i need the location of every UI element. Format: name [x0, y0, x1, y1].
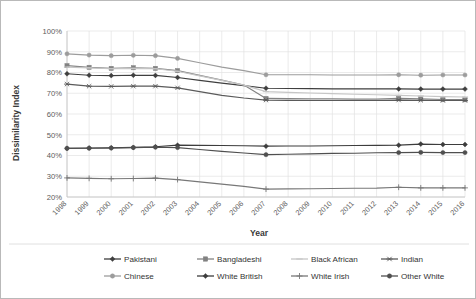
legend-item-chinese[interactable]: Chinese — [104, 272, 154, 281]
x-axis-title: Year — [250, 228, 269, 238]
y-axis-title: Dissimilarity Index — [11, 85, 21, 161]
x-tick-label: 2005 — [205, 199, 223, 217]
x-axis-tick-labels: 1998199920002001200220032004200520062007… — [50, 199, 466, 217]
y-tick-label: 100% — [43, 27, 63, 36]
x-tick-label: 2001 — [117, 199, 135, 217]
x-tick-label: 2014 — [404, 199, 422, 217]
x-tick-label: 2002 — [139, 199, 157, 217]
x-tick-label: 2011 — [338, 199, 356, 217]
legend-item-other-white[interactable]: Other White — [381, 272, 445, 281]
x-tick-label: 1999 — [73, 199, 91, 217]
x-tick-label: 2016 — [448, 199, 466, 217]
x-tick-label: 2003 — [161, 199, 179, 217]
legend-label: Indian — [401, 255, 423, 264]
chart-container: 100%90%80%70%60%50%40%30%20% 19981999200… — [0, 0, 476, 299]
x-tick-label: 2015 — [426, 199, 444, 217]
x-tick-label: 2004 — [183, 199, 201, 217]
line-chart: 100%90%80%70%60%50%40%30%20% 19981999200… — [1, 1, 476, 299]
y-tick-label: 30% — [47, 172, 62, 181]
legend-label: Chinese — [124, 272, 154, 281]
legend-label: Black African — [311, 255, 358, 264]
x-tick-label: 2012 — [360, 199, 378, 217]
x-tick-label: 2013 — [382, 199, 400, 217]
x-tick-label: 2010 — [316, 199, 334, 217]
legend-label: Pakistani — [124, 255, 157, 264]
legend-item-pakistani[interactable]: Pakistani — [104, 255, 157, 264]
legend-item-black-african[interactable]: Black African — [291, 255, 358, 264]
y-tick-label: 60% — [47, 110, 62, 119]
legend-item-white-british[interactable]: White British — [197, 272, 262, 281]
chart-legend: PakistaniBangladeshiBlack AfricanIndianC… — [104, 255, 445, 281]
x-tick-label: 2008 — [272, 199, 290, 217]
legend-label: White British — [217, 272, 262, 281]
y-axis-tick-labels: 100%90%80%70%60%50%40%30%20% — [43, 27, 63, 202]
x-tick-label: 2009 — [294, 199, 312, 217]
y-tick-label: 70% — [47, 89, 62, 98]
legend-label: Bangladeshi — [217, 255, 262, 264]
legend-item-white-irish[interactable]: White Irish — [291, 272, 349, 281]
x-tick-label: 2006 — [227, 199, 245, 217]
legend-item-bangladeshi[interactable]: Bangladeshi — [197, 255, 262, 264]
y-tick-label: 80% — [47, 68, 62, 77]
legend-label: White Irish — [311, 272, 349, 281]
y-tick-label: 40% — [47, 151, 62, 160]
legend-item-indian[interactable]: Indian — [381, 255, 423, 264]
y-tick-label: 50% — [47, 131, 62, 140]
x-tick-label: 2000 — [95, 199, 113, 217]
legend-label: Other White — [401, 272, 445, 281]
x-tick-label: 2007 — [249, 199, 267, 217]
y-tick-label: 90% — [47, 48, 62, 57]
